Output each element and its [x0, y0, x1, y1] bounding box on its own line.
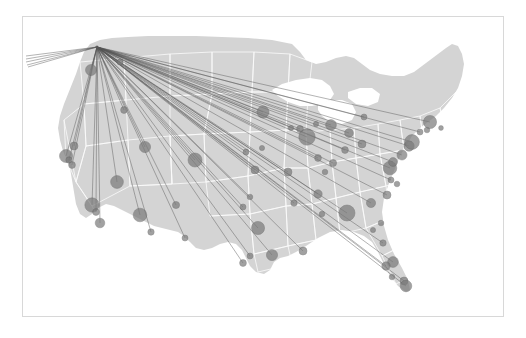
destination-node	[315, 155, 322, 162]
destination-node	[95, 218, 105, 228]
destination-node	[182, 235, 188, 241]
destination-node	[266, 249, 277, 260]
destination-node	[319, 211, 325, 217]
destination-node	[251, 221, 264, 234]
destination-node	[247, 194, 253, 200]
destination-node	[339, 205, 355, 221]
destination-node	[257, 106, 269, 118]
destination-node	[299, 129, 315, 145]
destination-node	[405, 135, 420, 150]
destination-node	[240, 260, 247, 267]
destination-node	[388, 177, 394, 183]
destination-node	[69, 162, 76, 169]
destination-node	[322, 169, 328, 175]
destination-node	[382, 262, 390, 270]
destination-node	[326, 120, 337, 131]
destination-node	[423, 115, 436, 128]
destination-node	[383, 191, 391, 199]
destination-node	[380, 240, 386, 246]
map-canvas	[0, 0, 526, 338]
hub-origin-node	[95, 45, 98, 48]
destination-node	[111, 176, 124, 189]
destination-node	[247, 253, 253, 259]
destination-node	[172, 201, 179, 208]
destination-node	[378, 220, 384, 226]
hub-node	[95, 45, 98, 48]
destination-node	[394, 181, 400, 187]
destination-node	[240, 204, 246, 210]
destination-node	[417, 129, 423, 135]
route-map-figure	[0, 0, 526, 338]
destination-node	[439, 126, 444, 131]
destination-node	[117, 59, 123, 65]
destination-node	[313, 121, 318, 126]
us-landmass	[58, 36, 464, 292]
destination-node	[139, 141, 150, 152]
destination-node	[291, 200, 297, 206]
destination-node	[370, 227, 375, 232]
destination-node	[397, 150, 407, 160]
destination-node	[121, 107, 128, 114]
destination-node	[188, 153, 202, 167]
destination-node	[329, 159, 336, 166]
destination-node	[389, 274, 395, 280]
destination-node	[345, 129, 354, 138]
destination-node	[284, 168, 292, 176]
destination-node	[93, 209, 100, 216]
destination-node	[314, 190, 322, 198]
destination-node	[133, 208, 147, 222]
destination-node	[148, 229, 154, 235]
destination-node	[389, 158, 398, 167]
destination-node	[366, 198, 375, 207]
destination-node	[70, 142, 78, 150]
destination-node	[400, 280, 412, 292]
destination-node	[259, 145, 264, 150]
destination-node	[251, 166, 259, 174]
destination-node	[288, 125, 293, 130]
destination-node	[342, 147, 349, 154]
destination-node	[358, 140, 366, 148]
destination-node	[243, 149, 249, 155]
destination-node	[299, 247, 307, 255]
destination-node	[361, 114, 367, 120]
destination-node	[86, 65, 97, 76]
